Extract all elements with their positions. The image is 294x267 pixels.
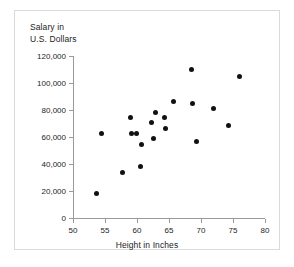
data-point [138, 164, 143, 169]
y-tick-label: 60,000 [42, 133, 66, 142]
y-tick-label: 120,000 [37, 52, 66, 61]
y-tick-mark [69, 110, 73, 111]
y-tick-label: 0 [62, 214, 66, 223]
x-tick-mark [73, 219, 74, 223]
data-point [211, 106, 216, 111]
y-axis-line [73, 56, 74, 218]
data-point [171, 99, 176, 104]
data-point [120, 170, 125, 175]
y-tick-mark [69, 164, 73, 165]
plot-area: 020,00040,00060,00080,000100,000120,0005… [0, 0, 294, 267]
x-tick-mark [201, 219, 202, 223]
x-tick-label: 55 [101, 226, 110, 235]
y-tick-label: 80,000 [42, 106, 66, 115]
data-point [128, 115, 133, 120]
data-point [151, 136, 156, 141]
x-tick-label: 75 [229, 226, 238, 235]
data-point [194, 139, 199, 144]
data-point [163, 126, 168, 131]
y-tick-mark [69, 191, 73, 192]
x-tick-label: 50 [69, 226, 78, 235]
x-tick-mark [233, 219, 234, 223]
data-point [162, 115, 167, 120]
x-tick-label: 80 [261, 226, 270, 235]
y-tick-label: 20,000 [42, 187, 66, 196]
x-tick-label: 70 [197, 226, 206, 235]
y-tick-mark [69, 83, 73, 84]
y-tick-mark [69, 56, 73, 57]
x-tick-mark [265, 219, 266, 223]
data-point [153, 110, 158, 115]
x-tick-label: 60 [133, 226, 142, 235]
scatter-plot-figure: Salary in U.S. Dollars Height in Inches … [0, 0, 294, 267]
data-point [237, 74, 242, 79]
x-tick-label: 65 [165, 226, 174, 235]
y-tick-label: 100,000 [37, 79, 66, 88]
y-tick-label: 40,000 [42, 160, 66, 169]
data-point [94, 191, 99, 196]
data-point [149, 120, 154, 125]
data-point [189, 67, 194, 72]
data-point [129, 131, 134, 136]
y-tick-mark [69, 137, 73, 138]
data-point [99, 131, 104, 136]
data-point [134, 131, 139, 136]
x-tick-mark [105, 219, 106, 223]
data-point [190, 101, 195, 106]
x-tick-mark [169, 219, 170, 223]
data-point [139, 142, 144, 147]
x-tick-mark [137, 219, 138, 223]
data-point [226, 123, 231, 128]
